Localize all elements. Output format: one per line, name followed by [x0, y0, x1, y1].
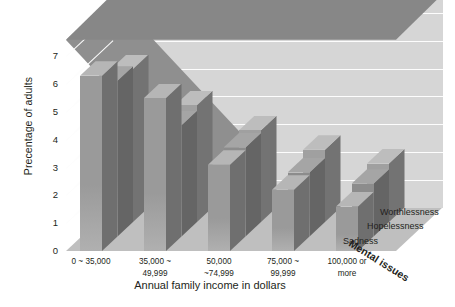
chart-canvas: Precentage of adults Annual family incom… [0, 0, 455, 307]
bar-side [102, 61, 118, 251]
y-tick-2: 2 [44, 189, 58, 200]
y-tick-1: 1 [44, 217, 58, 228]
y-tick-4: 4 [44, 134, 58, 145]
bar-face [144, 98, 166, 251]
y-tick-6: 6 [44, 78, 58, 89]
bar-sadness-2 [208, 165, 230, 251]
bar-sadness-1 [144, 98, 166, 251]
gridline [113, 41, 443, 42]
bar-sadness-3 [272, 190, 294, 251]
legend-item-hopelessness: Hopelessness [367, 221, 424, 231]
y-tick-7: 7 [44, 50, 58, 61]
bar-side [182, 111, 198, 237]
plot-top-bevel [66, 0, 443, 40]
x-axis-title: Annual family income in dollars [80, 279, 340, 291]
y-tick-0: 0 [44, 245, 58, 256]
bar-side [230, 150, 246, 251]
bar-side [246, 133, 262, 236]
legend-item-worthlessness: Worthlessness [380, 207, 439, 217]
bar-face [272, 190, 294, 251]
bar-face [80, 76, 102, 251]
y-axis-title: Precentage of adults [22, 46, 34, 206]
y-tick-5: 5 [44, 106, 58, 117]
x-tick-line: more [308, 268, 386, 280]
y-tick-3: 3 [44, 162, 58, 173]
bar-side [166, 84, 182, 251]
bar-side [118, 66, 134, 236]
bar-sadness-0 [80, 76, 102, 251]
bar-face [208, 165, 230, 251]
